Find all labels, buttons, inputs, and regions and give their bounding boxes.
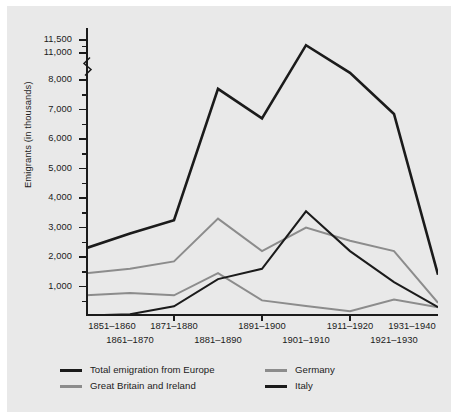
y-tick-3000 (79, 227, 86, 229)
y-minor-tick (82, 124, 87, 126)
x-tick-label: 1931–1940 (388, 320, 435, 332)
y-tick-5000 (79, 168, 86, 170)
y-minor-tick (82, 271, 87, 273)
y-minor-tick (82, 212, 87, 214)
plot-area (86, 28, 438, 316)
y-tick-label: 11,000 (44, 48, 72, 57)
y-tick-11500 (79, 39, 86, 41)
y-tick-7000 (79, 109, 86, 111)
x-tick-label: 1881–1890 (194, 334, 241, 346)
y-axis-tick-labels: 1,0002,0003,0004,0005,0006,0007,0008,000… (0, 28, 80, 316)
y-tick-2000 (79, 256, 86, 258)
legend-swatch-icon (265, 385, 287, 388)
series-line-germany (86, 273, 438, 311)
x-tick-label: 1861–1870 (106, 334, 153, 346)
series-line-total-emigration-from-europe (86, 45, 438, 275)
y-tick-label: 2,000 (48, 252, 72, 261)
x-axis-labels-lower-row: 1861–18701881–18901901–19101921–1930 (86, 334, 438, 348)
legend-label: Great Britain and Ireland (90, 379, 196, 393)
legend-label: Italy (295, 379, 313, 393)
legend-label: Total emigration from Europe (90, 363, 215, 377)
y-tick-label: 8,000 (48, 75, 72, 84)
y-tick-6000 (79, 138, 86, 140)
x-tick-label: 1901–1910 (282, 334, 329, 346)
y-minor-tick (82, 46, 87, 48)
y-tick-8000 (79, 79, 86, 81)
y-tick-label: 6,000 (48, 134, 72, 143)
y-tick-label: 3,000 (48, 223, 72, 232)
y-tick-1000 (79, 286, 86, 288)
y-minor-tick (82, 153, 87, 155)
y-tick-4000 (79, 197, 86, 199)
y-minor-tick (82, 183, 87, 185)
x-tick-label: 1911–1920 (327, 320, 374, 332)
chart-figure: Emigrants (in thousands) 1,0002,0003,000… (0, 0, 458, 418)
x-axis-labels-upper-row: 1851–18601871–18801891–19001911–19201931… (86, 320, 438, 334)
legend-swatch-icon (60, 385, 82, 388)
y-tick-11000 (79, 52, 86, 54)
y-minor-tick (82, 242, 87, 244)
x-tick-label: 1891–1900 (238, 320, 285, 332)
y-tick-label: 1,000 (48, 282, 72, 291)
y-tick-label: 7,000 (48, 105, 72, 114)
y-tick-label: 11,500 (44, 35, 72, 44)
chart-legend: Total emigration from EuropeGreat Britai… (60, 363, 430, 397)
legend-swatch-icon (265, 369, 287, 372)
y-tick-label: 4,000 (48, 193, 72, 202)
y-minor-tick (82, 94, 87, 96)
y-axis-line (86, 28, 88, 316)
y-minor-tick (82, 301, 87, 303)
series-lines (86, 28, 438, 316)
y-tick-label: 5,000 (48, 164, 72, 173)
x-tick-label: 1921–1930 (370, 334, 417, 346)
legend-label: Germany (295, 363, 335, 377)
x-tick-label: 1871–1880 (150, 320, 197, 332)
legend-swatch-icon (60, 369, 82, 372)
x-tick-label: 1851–1860 (88, 320, 135, 332)
